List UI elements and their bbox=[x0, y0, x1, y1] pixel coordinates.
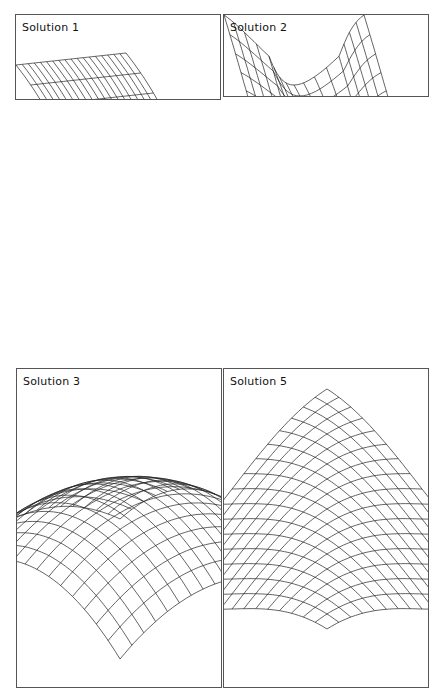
wireframe-surface bbox=[16, 15, 221, 100]
wireframe-surface bbox=[224, 369, 429, 688]
panel-solution-1: Solution 1 bbox=[15, 14, 221, 100]
panel-solution-3: Solution 3 bbox=[16, 368, 222, 688]
wireframe-surface bbox=[17, 369, 222, 688]
panel-solution-2: Solution 2 bbox=[223, 14, 429, 97]
wireframe-surface bbox=[224, 15, 429, 97]
panel-solution-5: Solution 5 bbox=[223, 368, 429, 688]
